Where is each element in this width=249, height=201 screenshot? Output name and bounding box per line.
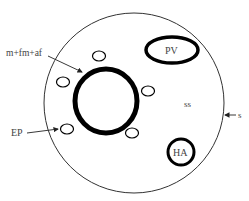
inner-thick-boundary [75,69,137,133]
cell-diagram: m+fm+af PV ss s EP HA [0,0,249,201]
label-s: s [238,110,242,120]
small-body-left [57,77,70,87]
arrow-ep [27,129,58,133]
label-ha: HA [173,147,188,158]
label-inner-boundary: m+fm+af [6,48,43,58]
outer-cell-boundary [44,13,224,193]
label-ss: ss [184,99,192,109]
small-body-top [93,51,106,61]
small-body-right [142,86,155,96]
small-body-ep [61,124,74,134]
small-body-bottom [126,128,139,138]
label-pv: PV [165,45,179,56]
label-ep: EP [11,127,23,138]
